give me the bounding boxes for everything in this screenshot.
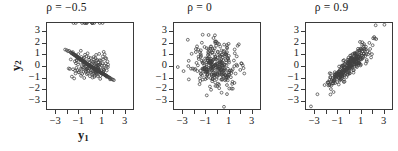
- panel-title: ρ = 0.9: [265, 1, 398, 13]
- x-tick-mark: [194, 110, 195, 114]
- y-tick-mark: [301, 43, 305, 44]
- x-tick-mark: [229, 110, 230, 114]
- y-tick-mark: [301, 78, 305, 79]
- y-tick-mark: [169, 31, 173, 32]
- x-tick-label: 1: [350, 115, 372, 126]
- plot-area: [46, 22, 134, 110]
- scatter-points: [174, 23, 260, 109]
- x-tick-label: −1: [67, 115, 89, 126]
- y-tick-label: 1: [277, 47, 299, 58]
- y-tick-mark: [169, 66, 173, 67]
- y-tick-mark: [42, 78, 46, 79]
- scatterplot-figure: ρ = −0.5 ρ = 0 ρ = 0.9 y2 y1 −3−1133210−…: [0, 0, 398, 151]
- y-tick-label: 3: [145, 24, 167, 35]
- x-tick-label: −3: [171, 115, 193, 126]
- y-tick-mark: [42, 54, 46, 55]
- y-tick-mark: [42, 66, 46, 67]
- x-tick-mark: [67, 110, 68, 114]
- y-tick-label: 1: [18, 47, 40, 58]
- panel-title: ρ = −0.5: [0, 1, 133, 13]
- y-tick-mark: [301, 31, 305, 32]
- y-tick-label: −2: [277, 82, 299, 93]
- x-tick-mark: [205, 110, 206, 114]
- y-tick-mark: [301, 89, 305, 90]
- plot-area: [305, 22, 393, 110]
- x-tick-mark: [314, 110, 315, 114]
- scatter-points: [47, 23, 133, 109]
- scatter-points: [306, 23, 392, 109]
- y-tick-mark: [169, 54, 173, 55]
- y-tick-label: −3: [277, 94, 299, 105]
- x-tick-mark: [182, 110, 183, 114]
- x-tick-mark: [349, 110, 350, 114]
- y-tick-label: 2: [277, 36, 299, 47]
- y-tick-label: 0: [18, 59, 40, 70]
- y-tick-label: 2: [18, 36, 40, 47]
- x-tick-mark: [361, 110, 362, 114]
- y-tick-mark: [42, 101, 46, 102]
- x-tick-label: 3: [114, 115, 136, 126]
- panel-title: ρ = 0: [133, 1, 266, 13]
- x-axis-title-subscript: 1: [84, 133, 89, 143]
- x-tick-mark: [78, 110, 79, 114]
- y-tick-label: −1: [18, 71, 40, 82]
- x-tick-mark: [337, 110, 338, 114]
- x-tick-mark: [326, 110, 327, 114]
- y-tick-label: −2: [145, 82, 167, 93]
- x-tick-mark: [90, 110, 91, 114]
- y-tick-mark: [301, 66, 305, 67]
- y-tick-label: −1: [277, 71, 299, 82]
- y-tick-label: 0: [277, 59, 299, 70]
- y-tick-mark: [42, 89, 46, 90]
- x-tick-mark: [384, 110, 385, 114]
- y-tick-mark: [169, 89, 173, 90]
- x-tick-label: 1: [218, 115, 240, 126]
- x-tick-label: 3: [241, 115, 263, 126]
- x-tick-mark: [55, 110, 56, 114]
- y-tick-label: −2: [18, 82, 40, 93]
- y-tick-mark: [42, 31, 46, 32]
- x-tick-mark: [102, 110, 103, 114]
- x-tick-mark: [125, 110, 126, 114]
- x-tick-mark: [240, 110, 241, 114]
- y-tick-mark: [169, 78, 173, 79]
- y-tick-label: 3: [277, 24, 299, 35]
- y-tick-mark: [169, 101, 173, 102]
- x-tick-mark: [113, 110, 114, 114]
- x-tick-label: −3: [303, 115, 325, 126]
- y-tick-label: −1: [145, 71, 167, 82]
- y-tick-label: −3: [18, 94, 40, 105]
- y-tick-label: 1: [145, 47, 167, 58]
- x-tick-label: −3: [44, 115, 66, 126]
- y-tick-mark: [169, 43, 173, 44]
- x-tick-mark: [217, 110, 218, 114]
- x-tick-label: 1: [91, 115, 113, 126]
- plot-area: [173, 22, 261, 110]
- y-tick-label: 3: [18, 24, 40, 35]
- x-tick-label: −1: [326, 115, 348, 126]
- x-tick-label: 3: [373, 115, 395, 126]
- y-tick-label: 0: [145, 59, 167, 70]
- x-tick-mark: [252, 110, 253, 114]
- x-axis-title: y1: [78, 128, 89, 143]
- x-tick-mark: [372, 110, 373, 114]
- y-tick-mark: [301, 101, 305, 102]
- y-tick-mark: [301, 54, 305, 55]
- y-tick-mark: [42, 43, 46, 44]
- y-tick-label: −3: [145, 94, 167, 105]
- x-tick-label: −1: [194, 115, 216, 126]
- y-tick-label: 2: [145, 36, 167, 47]
